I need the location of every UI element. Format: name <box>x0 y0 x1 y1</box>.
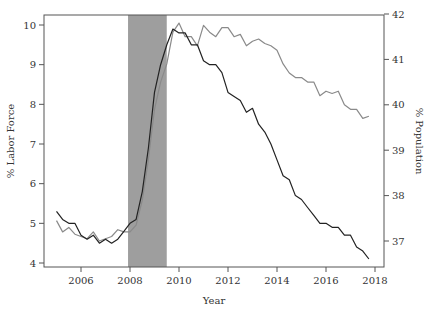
y-tick-label: 9 <box>30 59 36 70</box>
y-axis-right-title: % Population <box>414 108 425 175</box>
y-right-tick-label: 37 <box>392 236 405 247</box>
x-axis-title: Year <box>202 295 226 306</box>
y-axis-left-title: % Labor Force <box>5 104 16 178</box>
x-tick-label: 2006 <box>68 275 93 286</box>
y-right-tick-label: 40 <box>392 99 405 110</box>
x-tick-label: 2012 <box>215 275 240 286</box>
y-tick-label: 5 <box>30 218 36 229</box>
y-right-tick-label: 42 <box>392 9 405 20</box>
recession-band <box>128 15 167 267</box>
recession-shading <box>128 15 167 267</box>
chart: 2006200820102012201420162018 45678910 37… <box>0 0 428 310</box>
x-tick-label: 2014 <box>264 275 289 286</box>
y-tick-label: 6 <box>30 178 36 189</box>
x-tick-label: 2010 <box>166 275 191 286</box>
y-tick-label: 7 <box>30 139 36 150</box>
x-axis: 2006200820102012201420162018 <box>68 267 387 286</box>
x-tick-label: 2016 <box>313 275 338 286</box>
plot-frame <box>44 15 384 267</box>
data-lines <box>57 23 369 259</box>
y-axis-left: 45678910 <box>23 20 44 269</box>
y-tick-label: 4 <box>30 258 36 269</box>
y-tick-label: 8 <box>30 99 36 110</box>
population-line <box>57 23 369 241</box>
y-tick-label: 10 <box>23 20 36 31</box>
labor-force-line <box>57 29 369 259</box>
x-tick-label: 2018 <box>362 275 387 286</box>
y-axis-right: 373839404142 <box>384 9 405 247</box>
y-right-tick-label: 39 <box>392 145 405 156</box>
y-right-tick-label: 41 <box>392 54 405 65</box>
x-tick-label: 2008 <box>117 275 142 286</box>
y-right-tick-label: 38 <box>392 190 405 201</box>
